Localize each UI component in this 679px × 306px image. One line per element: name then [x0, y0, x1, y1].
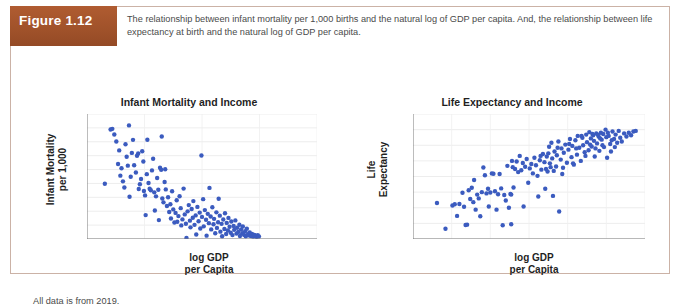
x-axis-title-left: log GDP per Capita	[49, 252, 369, 275]
y-axis-title-left-line2: per 1,000	[56, 148, 67, 191]
scatter-plot-right: 5055606570758085906789101112	[413, 114, 645, 239]
x-axis-title-right-line2: per Capita	[510, 264, 559, 275]
scatter-plot-left: 010203040506070809068101214	[87, 114, 317, 239]
y-axis-title-left-line1: Infant Mortality	[45, 134, 56, 206]
chart-title-right: Life Expectancy and Income	[351, 96, 673, 108]
y-axis-title-right: Life Expectancy	[366, 122, 389, 218]
x-axis-title-left-line1: log GDP	[189, 252, 228, 263]
figure-footer-note: All data is from 2019.	[33, 296, 119, 306]
y-axis-title-right-line2: Expectancy	[377, 142, 388, 198]
figure-caption-band: Figure 1.12 The relationship between inf…	[10, 6, 670, 46]
plot-area-left: 010203040506070809068101214	[87, 114, 317, 239]
chart-life-expectancy-and-income: Life Expectancy and Income Life Expectan…	[351, 96, 673, 286]
y-axis-title-right-line1: Life	[366, 161, 377, 179]
figure-body-panel: Infant Mortality and Income Infant Morta…	[10, 46, 670, 274]
figure-caption-text: The relationship between infant mortalit…	[127, 13, 655, 38]
x-axis-title-right-line1: log GDP	[514, 252, 553, 263]
plot-area-right: 5055606570758085906789101112	[413, 114, 645, 239]
x-axis-title-right: log GDP per Capita	[373, 252, 679, 275]
figure-number-label: Figure 1.12	[19, 13, 92, 28]
figure-caption-box: The relationship between infant mortalit…	[117, 6, 670, 46]
chart-infant-mortality-and-income: Infant Mortality and Income Infant Morta…	[29, 96, 349, 286]
x-axis-title-left-line2: per Capita	[185, 264, 234, 275]
y-axis-title-left: Infant Mortality per 1,000	[45, 122, 68, 218]
chart-title-left: Infant Mortality and Income	[29, 96, 349, 108]
